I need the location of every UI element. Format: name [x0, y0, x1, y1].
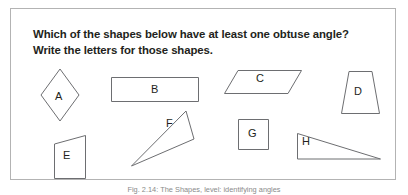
question-prompt-line-2: Write the letters for those shapes.: [33, 43, 393, 59]
shape-f-label: F: [166, 118, 173, 129]
shape-h-label: H: [302, 136, 310, 147]
shape-f-triangle: [131, 109, 195, 167]
question-prompt-line-1: Which of the shapes below have at least …: [33, 27, 393, 43]
shape-d-label: D: [354, 86, 362, 97]
shape-e-label: E: [63, 150, 70, 161]
shape-b-label: B: [151, 84, 158, 95]
question-prompt: Which of the shapes below have at least …: [33, 27, 393, 58]
figure-caption: Fig. 2.14: The Shapes, level: identifyin…: [0, 185, 408, 195]
figure-border-box: Which of the shapes below have at least …: [10, 8, 396, 180]
shape-a-label: A: [55, 91, 62, 102]
figure-page: Which of the shapes below have at least …: [0, 0, 408, 195]
shape-g-label: G: [248, 128, 257, 139]
shape-c-label: C: [256, 73, 264, 84]
